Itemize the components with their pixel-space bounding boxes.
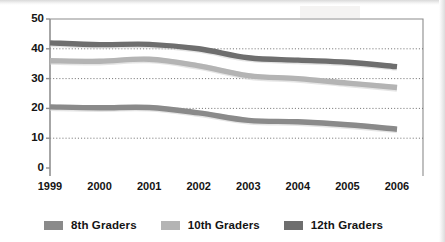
legend-swatch-icon	[161, 221, 180, 230]
legend-item-label: 8th Graders	[71, 219, 137, 231]
x-tick-label-2005: 2005	[325, 180, 369, 192]
x-tick-label-1999: 1999	[28, 180, 72, 192]
line-chart: 01020304050 1999200020012002200320042005…	[0, 0, 445, 242]
y-tick-label-30: 30	[18, 72, 44, 84]
x-tick-label-2003: 2003	[226, 180, 270, 192]
x-tick-label-2006: 2006	[375, 180, 419, 192]
y-tick-label-50: 50	[18, 12, 44, 24]
y-tick-label-20: 20	[18, 101, 44, 113]
series-8th-graders	[50, 107, 397, 130]
x-tick-label-2001: 2001	[127, 180, 171, 192]
legend-swatch-icon	[284, 221, 303, 230]
y-tick-label-10: 10	[18, 131, 44, 143]
legend-item-12th-graders[interactable]: 12th Graders	[284, 219, 383, 231]
chart-legend: 8th Graders10th Graders12th Graders	[0, 212, 445, 238]
x-tick-label-2000: 2000	[78, 180, 122, 192]
legend-swatch-icon	[44, 221, 63, 230]
x-tick-label-2004: 2004	[276, 180, 320, 192]
y-tick-label-0: 0	[18, 161, 44, 173]
x-tick-label-2002: 2002	[177, 180, 221, 192]
legend-item-10th-graders[interactable]: 10th Graders	[161, 219, 260, 231]
legend-item-label: 10th Graders	[188, 219, 260, 231]
y-tick-label-40: 40	[18, 42, 44, 54]
legend-item-8th-graders[interactable]: 8th Graders	[44, 219, 137, 231]
chart-plot-area	[0, 0, 445, 242]
legend-item-label: 12th Graders	[311, 219, 383, 231]
series-line	[50, 107, 397, 129]
